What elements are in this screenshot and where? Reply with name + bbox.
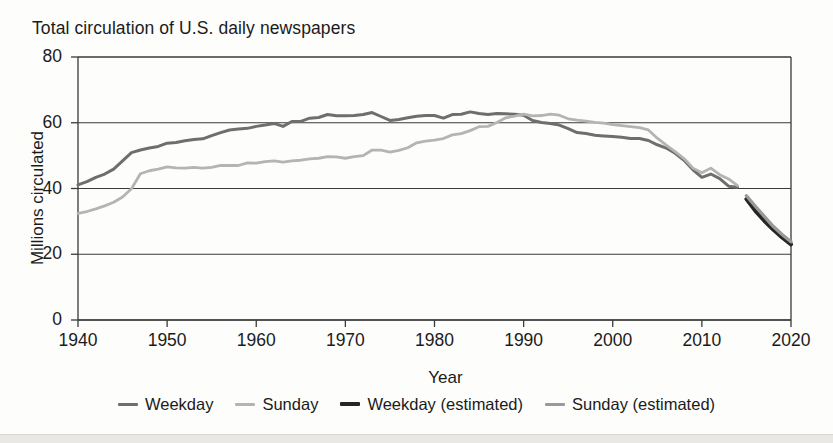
- legend-item-sunday-estimated[interactable]: Sunday (estimated): [545, 396, 715, 413]
- legend-item-sunday[interactable]: Sunday: [235, 396, 318, 413]
- x-axis-label: Year: [0, 368, 833, 388]
- legend-label: Weekday: [145, 396, 213, 413]
- legend-swatch-icon: [340, 402, 360, 406]
- chart-legend: WeekdaySundayWeekday (estimated)Sunday (…: [0, 396, 833, 413]
- legend-swatch-icon: [235, 403, 255, 406]
- legend-label: Weekday (estimated): [367, 396, 523, 413]
- page-edge-strip: [0, 434, 833, 443]
- legend-label: Sunday (estimated): [572, 396, 715, 413]
- series-line-sunday-estimated: [746, 196, 791, 242]
- legend-item-weekday-estimated[interactable]: Weekday (estimated): [340, 396, 523, 413]
- legend-swatch-icon: [545, 403, 565, 407]
- legend-label: Sunday: [262, 396, 318, 413]
- legend-item-weekday[interactable]: Weekday: [118, 396, 213, 413]
- x-axis-label-text: Year: [428, 368, 462, 388]
- series-line-sunday: [78, 114, 738, 213]
- legend-swatch-icon: [118, 403, 138, 406]
